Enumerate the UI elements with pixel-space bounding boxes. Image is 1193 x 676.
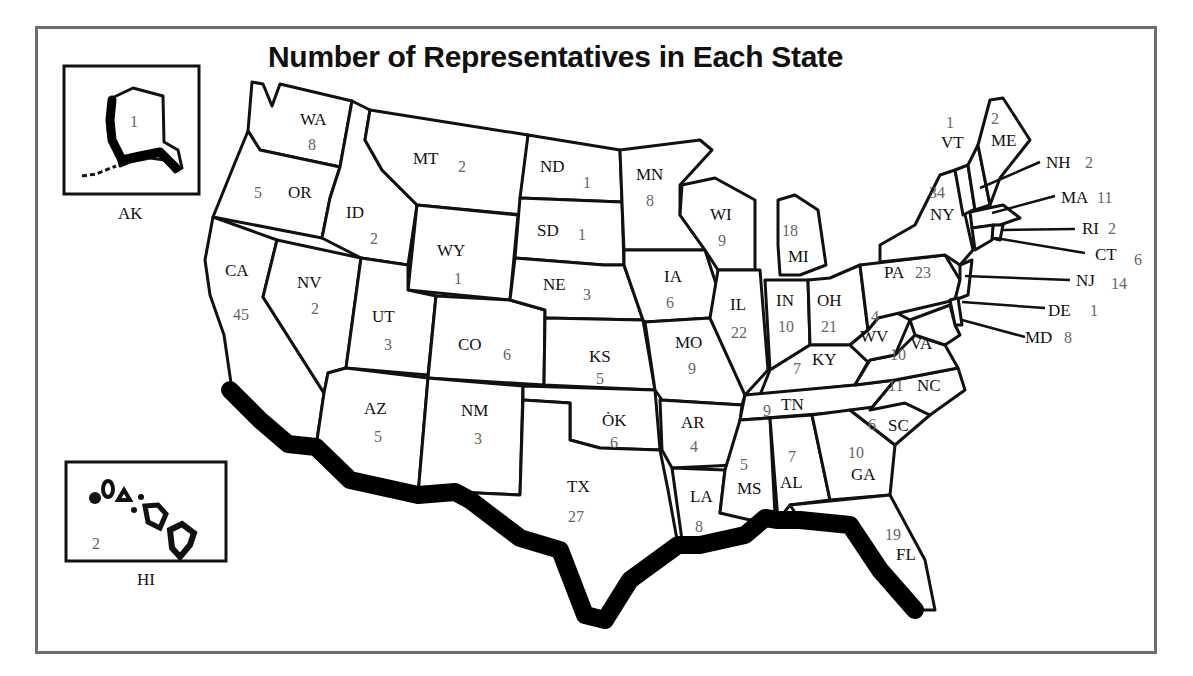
state-number-WI: 9	[718, 232, 726, 249]
state-number-NV: 2	[311, 300, 319, 317]
state-label-WA: WA	[300, 110, 327, 129]
state-number-CO: 6	[503, 346, 511, 363]
state-label-MI: MI	[788, 247, 809, 266]
state-label-KS: KS	[589, 347, 611, 366]
state-label-WY: WY	[437, 241, 465, 260]
state-label-GA: GA	[851, 465, 876, 484]
state-label-VT: VT	[941, 133, 964, 152]
state-label-PA: PA	[884, 263, 905, 282]
state-label-NH: NH	[1046, 153, 1071, 172]
state-number-ND: 1	[583, 174, 591, 191]
state-ME[interactable]	[978, 98, 1030, 205]
state-number-LA: 8	[695, 518, 703, 535]
state-number-NH: 2	[1085, 154, 1093, 171]
state-label-FL: FL	[896, 545, 916, 564]
state-SD[interactable]	[515, 198, 624, 265]
state-number-WV: 4	[871, 308, 879, 325]
state-number-IA: 6	[666, 294, 674, 311]
state-label-NM: NM	[461, 401, 488, 420]
state-label-TX: TX	[567, 477, 590, 496]
state-label-VA: VA	[910, 334, 933, 353]
inset-alaska: 1 AK	[64, 66, 199, 223]
us-map: 1 AK 2 HI	[0, 0, 1193, 676]
state-number-GA: 10	[848, 444, 864, 461]
state-number-KY: 7	[793, 360, 801, 377]
state-label-SC: SC	[888, 416, 909, 435]
state-number-VA: 10	[890, 346, 906, 363]
state-number-HI: 2	[92, 535, 100, 552]
state-number-TX: 27	[568, 508, 584, 525]
state-label-MN: MN	[636, 165, 663, 184]
state-number-MD: 8	[1064, 329, 1072, 346]
state-number-UT: 3	[384, 336, 392, 353]
state-label-AR: AR	[681, 413, 705, 432]
state-NM[interactable]	[418, 378, 523, 495]
state-number-NE: 3	[583, 286, 591, 303]
state-number-NM: 3	[474, 430, 482, 447]
state-number-ME: 2	[991, 110, 999, 127]
state-CT[interactable]	[972, 225, 993, 250]
state-label-NC: NC	[917, 376, 941, 395]
state-label-AL: AL	[780, 473, 803, 492]
state-number-RI: 2	[1108, 220, 1116, 237]
state-number-ID: 2	[370, 230, 378, 247]
state-label-CA: CA	[225, 261, 249, 280]
state-number-TN: 9	[763, 402, 771, 419]
state-label-AK: AK	[118, 204, 143, 223]
state-label-ME: ME	[991, 131, 1017, 150]
state-number-AK: 1	[130, 113, 138, 130]
state-label-AZ: AZ	[364, 399, 387, 418]
state-number-AL: 7	[788, 448, 796, 465]
state-number-CA: 45	[233, 306, 249, 323]
state-label-CT: CT	[1095, 245, 1117, 264]
state-number-IL: 22	[731, 324, 747, 341]
state-number-SD: 1	[578, 226, 586, 243]
state-number-MS: 5	[740, 456, 748, 473]
state-number-AZ: 5	[374, 428, 382, 445]
state-number-MT: 2	[458, 158, 466, 175]
state-number-MA: 11	[1097, 189, 1112, 206]
state-label-TN: TN	[781, 395, 804, 414]
state-number-IN: 10	[778, 318, 794, 335]
state-label-UT: UT	[372, 307, 395, 326]
state-number-NY: 34	[929, 184, 945, 201]
state-number-PA: 23	[915, 264, 931, 281]
state-number-VT: 1	[946, 114, 954, 131]
state-label-OH: OH	[817, 291, 842, 310]
state-number-WY: 1	[454, 270, 462, 287]
state-label-NJ: NJ	[1076, 271, 1095, 290]
state-label-IL: IL	[730, 295, 746, 314]
state-label-ID: ID	[346, 203, 364, 222]
state-label-OR: OR	[288, 183, 312, 202]
state-number-MN: 8	[646, 192, 654, 209]
state-label-KY: KY	[812, 350, 837, 369]
state-label-NY: NY	[930, 205, 955, 224]
state-label-WI: WI	[710, 205, 732, 224]
state-label-DE: DE	[1048, 301, 1071, 320]
state-number-MO: 9	[688, 360, 696, 377]
state-label-NV: NV	[297, 273, 322, 292]
state-number-FL: 19	[885, 526, 901, 543]
state-number-AR: 4	[690, 438, 698, 455]
state-number-SC: 6	[868, 416, 876, 433]
state-number-OR: 5	[254, 184, 262, 201]
state-number-WA: 8	[308, 136, 316, 153]
state-label-NE: NE	[543, 275, 566, 294]
state-label-MS: MS	[737, 479, 762, 498]
state-number-OH: 21	[821, 318, 837, 335]
state-label-OK: ȮK	[602, 411, 627, 430]
state-CO[interactable]	[428, 296, 545, 385]
state-label-CO: CO	[458, 335, 482, 354]
state-label-MD: MD	[1025, 328, 1052, 347]
state-label-MT: MT	[413, 149, 439, 168]
mainland-states	[205, 82, 1030, 620]
state-ND[interactable]	[520, 135, 622, 202]
state-number-OK: 6	[610, 434, 618, 451]
state-number-MI: 18	[782, 222, 798, 239]
state-number-CT: 6	[1134, 251, 1142, 268]
state-label-ND: ND	[540, 157, 565, 176]
state-label-MO: MO	[675, 333, 702, 352]
state-label-SD: SD	[537, 221, 559, 240]
state-number-DE: 1	[1090, 302, 1098, 319]
state-label-IA: IA	[664, 267, 683, 286]
